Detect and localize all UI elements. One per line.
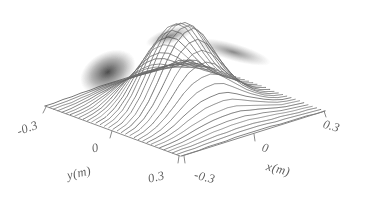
x-axis-line bbox=[182, 111, 325, 156]
figure-canvas: -0.3 0 0.3 y(m) -0.3 0 0.3 x(m) bbox=[0, 0, 367, 224]
tick-y-min-mark bbox=[43, 107, 46, 113]
tick-y-max-mark bbox=[178, 156, 179, 163]
tick-x-max-mark bbox=[324, 111, 326, 117]
surface-plot bbox=[0, 0, 367, 224]
tick-x-mid-mark bbox=[254, 134, 255, 141]
tick-y-mid-mark bbox=[110, 131, 112, 138]
mesh-line bbox=[164, 105, 308, 150]
tick-x-min-mark bbox=[184, 156, 185, 163]
mesh-line bbox=[168, 106, 312, 151]
mesh-line bbox=[177, 109, 321, 154]
